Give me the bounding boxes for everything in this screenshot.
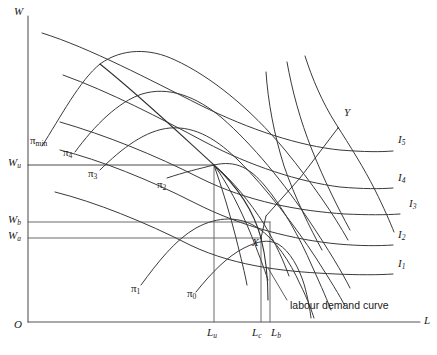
- figure-canvas: W L O Wu Wb Wa Lu Lc Lb πmin π4 π3 π2 π1…: [0, 0, 437, 355]
- x-tick-lu: Lu: [207, 326, 217, 340]
- y-tick-wb: Wb: [8, 213, 21, 227]
- indifference-curve-i3: [60, 122, 400, 215]
- curve-label-pi4: π4: [63, 146, 72, 160]
- curve-label-i1-sub: 1: [402, 262, 406, 271]
- curve-label-pi2-sub: 2: [163, 183, 167, 192]
- y-tick-wa-base: W: [8, 229, 17, 241]
- y-tick-wb-base: W: [8, 213, 17, 225]
- curve-label-i5-sub: 5: [402, 138, 406, 147]
- x-tick-lb: Lb: [271, 326, 281, 340]
- indifference-curve-i5: [42, 33, 393, 152]
- point-label-y: Y: [344, 106, 350, 118]
- point-marker-y: [337, 127, 339, 129]
- x-tick-lc: Lc: [252, 326, 261, 340]
- curve-label-pi4-sub: 4: [69, 151, 73, 160]
- point-label-x: X: [252, 236, 259, 248]
- isoprofit-curve-right-b: [287, 62, 350, 230]
- isoprofit-curve-pi3: [100, 128, 345, 306]
- x-axis-label: L: [424, 314, 430, 326]
- y-tick-wu-sub: u: [17, 161, 21, 170]
- curve-label-i3: I3: [409, 197, 416, 211]
- curve-label-pi2: π2: [157, 178, 166, 192]
- y-tick-wb-sub: b: [17, 218, 21, 227]
- x-tick-lc-sub: c: [258, 331, 261, 340]
- curve-label-pi3: π3: [88, 167, 97, 181]
- curve-label-i4: I4: [398, 171, 405, 185]
- curve-label-pi1: π1: [131, 282, 140, 296]
- point-marker-x: [260, 237, 262, 239]
- curve-label-pimin: πmin: [30, 134, 47, 148]
- curve-label-pi1-sub: 1: [137, 287, 141, 296]
- isoprofit-curve-through-y: [305, 56, 394, 232]
- curve-label-i4-sub: 4: [402, 176, 406, 185]
- curve-label-i1: I1: [398, 257, 405, 271]
- y-axis-label: W: [14, 5, 23, 17]
- curve-label-pi0-sub: 0: [193, 292, 197, 301]
- curve-label-pimin-sub: min: [36, 139, 48, 148]
- annotation-leader-line: [268, 268, 287, 300]
- curve-label-i5: I5: [398, 133, 405, 147]
- curve-label-pi3-sub: 3: [94, 172, 98, 181]
- x-tick-lb-sub: b: [277, 331, 281, 340]
- origin-label: O: [14, 318, 22, 330]
- annotation-labour-demand-curve: labour demand curve: [290, 299, 389, 311]
- curve-label-i2: I2: [398, 228, 405, 242]
- y-tick-wa: Wa: [8, 229, 21, 243]
- indifference-curve-i4: [63, 75, 393, 189]
- curve-label-i3-sub: 3: [413, 202, 417, 211]
- y-tick-wu: Wu: [8, 156, 21, 170]
- y-tick-wu-base: W: [8, 156, 17, 168]
- curve-label-i2-sub: 2: [402, 233, 406, 242]
- y-tick-wa-sub: a: [17, 234, 21, 243]
- tangency-connector-y: [300, 128, 338, 178]
- curve-label-pi0: π0: [187, 287, 196, 301]
- x-tick-lu-sub: u: [213, 331, 217, 340]
